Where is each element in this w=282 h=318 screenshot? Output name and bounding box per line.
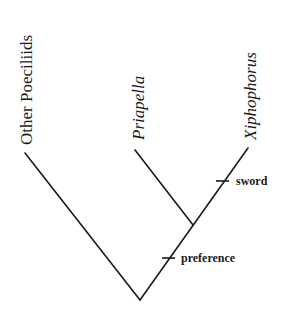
taxon-label-other-poeciliids: Other Poeciliids <box>17 35 36 145</box>
trait-label-preference: preference <box>181 251 236 265</box>
branch-other-poeciliids <box>25 153 140 300</box>
branch-priapella <box>135 150 193 225</box>
trait-label-sword: sword <box>236 174 268 188</box>
taxon-label-priapella: Priapella <box>129 76 148 141</box>
cladogram: sword preference Other Poeciliids Priape… <box>0 0 282 318</box>
taxon-label-xiphophorus: Xiphophorus <box>241 52 260 141</box>
branch-xiphophorus-to-root <box>140 148 248 300</box>
